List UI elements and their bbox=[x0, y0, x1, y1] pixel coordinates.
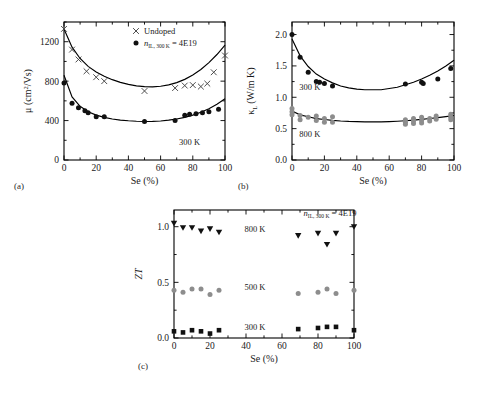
y-tick-label: 400 bbox=[45, 116, 60, 126]
data-point bbox=[434, 117, 439, 122]
data-point bbox=[211, 69, 217, 75]
data-point bbox=[208, 331, 213, 336]
data-point bbox=[180, 225, 186, 231]
data-point bbox=[182, 113, 187, 118]
data-point bbox=[133, 28, 139, 34]
y-tick-label: 800 bbox=[45, 77, 60, 87]
data-point bbox=[298, 113, 303, 118]
panel-c-plot: 0204060801000.00.51.0800 K500 K300 KnIL,… bbox=[128, 200, 373, 365]
data-point bbox=[314, 114, 319, 119]
data-point bbox=[102, 114, 107, 119]
x-tick-label: 80 bbox=[188, 163, 198, 173]
data-point bbox=[173, 118, 178, 123]
data-point bbox=[142, 119, 147, 124]
panel-c-zt-chart: 0204060801000.00.51.0800 K500 K300 KnIL,… bbox=[128, 200, 373, 365]
x-tick-label: 0 bbox=[62, 163, 67, 173]
panel-b-plot: 0204060801000.00.51.01.52.0300 K800 KSe … bbox=[240, 12, 465, 187]
legend: UndopednIL, 300 K = 4E19 bbox=[133, 26, 197, 49]
thermoelectric-properties-figure: 02040608010004008001200300 KSe (%)μ (cm2… bbox=[0, 0, 479, 399]
data-point bbox=[217, 288, 222, 293]
annotation-temperature: 800 K bbox=[299, 129, 321, 139]
data-point bbox=[325, 287, 330, 292]
data-point bbox=[298, 55, 303, 60]
data-point bbox=[296, 291, 301, 296]
data-point bbox=[198, 84, 204, 90]
data-point bbox=[403, 122, 408, 127]
annotation-carrier-concentration: nIL, 300 K = 4E19 bbox=[304, 208, 357, 219]
data-point bbox=[206, 109, 211, 114]
data-point bbox=[333, 231, 339, 237]
data-point bbox=[93, 74, 99, 80]
data-point bbox=[298, 117, 303, 122]
data-point bbox=[199, 329, 204, 334]
y-tick-label: 1.5 bbox=[275, 61, 287, 71]
data-point bbox=[172, 288, 177, 293]
x-tick-label: 20 bbox=[205, 341, 215, 351]
data-point bbox=[208, 292, 213, 297]
annotation-temperature: 300 K bbox=[244, 322, 266, 332]
x-axis-title: Se (%) bbox=[359, 175, 387, 187]
data-point bbox=[314, 118, 319, 123]
data-point bbox=[86, 110, 91, 115]
x-tick-label: 0 bbox=[172, 341, 177, 351]
data-point bbox=[352, 288, 357, 293]
data-point bbox=[216, 230, 222, 236]
data-point bbox=[187, 112, 192, 117]
data-point bbox=[352, 328, 357, 333]
data-point bbox=[101, 78, 107, 84]
y-tick-label: 1200 bbox=[40, 37, 59, 47]
data-point bbox=[94, 114, 99, 119]
data-point bbox=[171, 221, 177, 227]
data-point bbox=[325, 325, 330, 330]
data-point bbox=[330, 120, 335, 125]
x-axis-title: Se (%) bbox=[250, 353, 278, 365]
y-tick-label: 0.0 bbox=[275, 155, 287, 165]
data-point bbox=[84, 68, 90, 74]
data-point bbox=[70, 101, 75, 106]
data-point bbox=[181, 330, 186, 335]
x-tick-label: 40 bbox=[124, 163, 134, 173]
data-point bbox=[419, 120, 424, 125]
data-point bbox=[216, 107, 221, 112]
data-point bbox=[411, 121, 416, 126]
panel-c-label: (c) bbox=[138, 361, 148, 371]
panel-a-mobility-chart: 02040608010004008001200300 KSe (%)μ (cm2… bbox=[18, 12, 233, 187]
data-point bbox=[448, 66, 453, 71]
data-point bbox=[200, 110, 205, 115]
x-tick-label: 60 bbox=[156, 163, 166, 173]
legend-label-doped: nIL, 300 K = 4E19 bbox=[144, 38, 197, 49]
data-point bbox=[421, 81, 426, 86]
data-point bbox=[181, 290, 186, 295]
x-tick-label: 60 bbox=[384, 163, 394, 173]
x-tick-label: 100 bbox=[218, 163, 233, 173]
data-point bbox=[194, 111, 199, 116]
data-point bbox=[76, 105, 81, 110]
panel-b-label: (b) bbox=[238, 181, 249, 191]
x-tick-label: 100 bbox=[347, 341, 362, 351]
annotation-temperature: 500 K bbox=[244, 282, 266, 292]
data-point bbox=[330, 114, 335, 119]
panel-a-plot: 02040608010004008001200300 KSe (%)μ (cm2… bbox=[18, 12, 233, 187]
x-tick-label: 20 bbox=[320, 163, 330, 173]
annotation-temperature: 300 K bbox=[179, 137, 201, 147]
data-point bbox=[315, 231, 321, 237]
legend-marker-doped bbox=[134, 41, 139, 46]
data-point bbox=[172, 329, 177, 334]
data-point bbox=[290, 112, 295, 117]
y-tick-label: 0.5 bbox=[157, 278, 169, 288]
y-axis-title: μ (cm2/Vs) bbox=[22, 69, 35, 113]
data-point bbox=[334, 291, 339, 296]
data-point bbox=[190, 287, 195, 292]
legend-label-undoped: Undoped bbox=[144, 26, 176, 36]
y-tick-label: 1.0 bbox=[275, 93, 287, 103]
data-point bbox=[427, 119, 432, 124]
y-tick-label: 0.5 bbox=[275, 124, 287, 134]
y-axis-title: κL (W/m K) bbox=[245, 67, 258, 114]
x-tick-label: 100 bbox=[447, 163, 462, 173]
x-tick-label: 40 bbox=[241, 341, 251, 351]
data-point bbox=[324, 242, 330, 248]
data-point bbox=[334, 325, 339, 330]
data-point bbox=[316, 290, 321, 295]
x-tick-label: 20 bbox=[91, 163, 101, 173]
y-tick-label: 2.0 bbox=[275, 30, 287, 40]
